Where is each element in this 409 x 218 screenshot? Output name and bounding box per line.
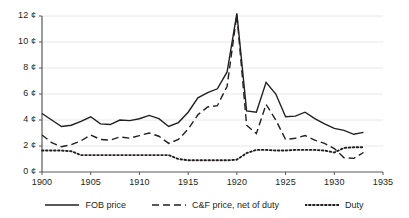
chart-legend: FOB priceC&F price, net of dutyDuty	[0, 192, 409, 218]
series-line-fob-price	[42, 13, 364, 134]
legend-item-duty[interactable]: Duty	[305, 200, 364, 210]
y-axis-tick-label: 4 ¢	[2, 114, 36, 124]
x-axis-tick-label: 1905	[71, 177, 111, 187]
x-axis-tick-label: 1910	[119, 177, 159, 187]
price-duty-line-chart: 0 ¢2 ¢4 ¢6 ¢8 ¢10 ¢12 ¢ 1900190519101915…	[0, 0, 409, 218]
y-axis-tick-label: 10 ¢	[2, 36, 36, 46]
legend-label: C&F price, net of duty	[192, 200, 279, 210]
x-axis-tick-label: 1920	[217, 177, 257, 187]
gridlines	[42, 16, 383, 146]
y-axis-tick-label: 2 ¢	[2, 140, 36, 150]
x-axis-tick-label: 1930	[314, 177, 354, 187]
legend-item-fob-price[interactable]: FOB price	[45, 200, 126, 210]
y-axis-tick-label: 0 ¢	[2, 166, 36, 176]
legend-swatch-dotted	[305, 201, 339, 209]
x-axis-tick-label: 1915	[168, 177, 208, 187]
legend-swatch-solid	[45, 201, 79, 209]
legend-swatch-dashed	[152, 201, 186, 209]
legend-label: FOB price	[85, 200, 126, 210]
legend-label: Duty	[345, 200, 364, 210]
x-axis-tick-label: 1925	[266, 177, 306, 187]
series-line-c-f-price-net-of-duty	[42, 15, 364, 159]
y-axis-tick-label: 8 ¢	[2, 62, 36, 72]
x-axis-tick-label: 1935	[363, 177, 403, 187]
y-axis-tick-label: 6 ¢	[2, 88, 36, 98]
y-axis-tick-label: 12 ¢	[2, 10, 36, 20]
data-series-layer	[42, 13, 364, 160]
legend-item-c-f-price-net-of-duty[interactable]: C&F price, net of duty	[152, 200, 279, 210]
x-axis-tick-label: 1900	[22, 177, 62, 187]
series-line-duty	[42, 147, 364, 160]
